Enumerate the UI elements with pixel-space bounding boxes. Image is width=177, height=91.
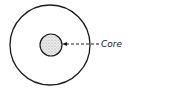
- core-circle: [40, 34, 62, 56]
- core-label: Core: [101, 39, 122, 49]
- fiber-cross-section-diagram: Core: [0, 0, 177, 91]
- arrowhead-icon: [62, 42, 67, 46]
